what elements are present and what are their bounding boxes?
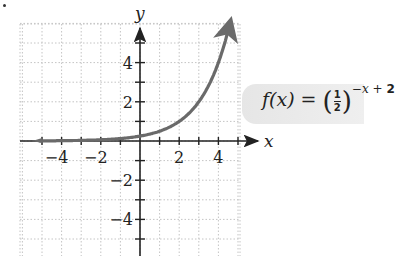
svg-text:2: 2 (123, 93, 133, 112)
svg-text:4: 4 (213, 148, 223, 167)
left-paren: ( (323, 86, 333, 116)
svg-text:2: 2 (174, 148, 184, 167)
svg-text:−2: −2 (84, 148, 108, 167)
y-axis-label: y (134, 3, 145, 23)
svg-text:−2: −2 (109, 171, 133, 190)
svg-text:−4: −4 (45, 148, 69, 167)
function-formula: f(x) = (12)−x + 2 (262, 86, 395, 116)
x-axis-label: x (264, 131, 274, 151)
svg-text:−4: −4 (109, 210, 133, 229)
formula-lhs: f(x) = (262, 88, 323, 110)
right-paren: ) (342, 86, 352, 116)
exponent: −x + 2 (352, 82, 395, 96)
svg-text:4: 4 (123, 54, 133, 73)
fraction: 12 (334, 90, 341, 113)
fraction-numerator: 1 (334, 90, 341, 100)
fraction-denominator: 2 (334, 103, 341, 113)
